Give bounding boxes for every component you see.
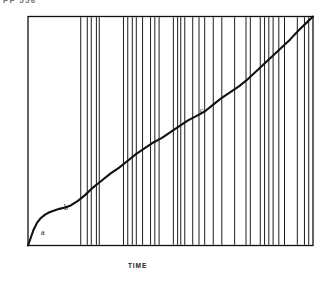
curve-annotation-a: a: [41, 228, 45, 237]
curve-annotation-c: c: [200, 106, 204, 115]
plot-canvas: [0, 0, 334, 285]
cumulative-record-figure: PP 556 TIME RESPONSES abc: [0, 0, 334, 285]
x-axis-title: TIME: [128, 262, 147, 269]
curve-annotation-b: b: [64, 203, 68, 212]
